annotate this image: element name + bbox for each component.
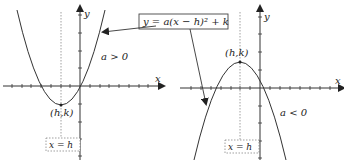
- right-vertex-point: [239, 61, 242, 64]
- left-x-label: x: [155, 73, 161, 84]
- quadratic-vertex-form-diagram: x y (h,k) a > 0 x = h x y (h: [0, 0, 344, 167]
- formula-pointer-right: [190, 29, 206, 104]
- right-x-label: x: [335, 75, 341, 86]
- right-vertex-label: (h,k): [225, 47, 249, 58]
- right-y-label: y: [263, 11, 270, 22]
- left-condition-label: a > 0: [101, 51, 129, 62]
- formula-text: y = a(x − h)² + k: [142, 16, 229, 27]
- left-axis-of-symmetry-label: x = h: [49, 140, 73, 150]
- left-y-label: y: [83, 8, 90, 19]
- left-vertex-label: (h,k): [50, 107, 74, 118]
- right-condition-label: a < 0: [280, 107, 308, 118]
- right-axis-of-symmetry-label: x = h: [228, 142, 252, 152]
